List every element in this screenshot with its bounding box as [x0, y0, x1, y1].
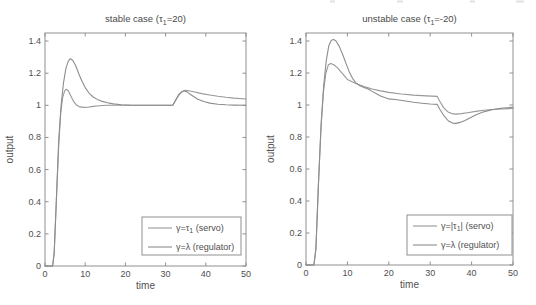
y-tick-label: 0.4 [289, 196, 302, 206]
y-tick-label: 1 [297, 100, 302, 110]
legend-label: γ=λ (regulator) [441, 240, 499, 250]
x-tick-label: 10 [342, 268, 352, 278]
y-tick-label: 0.4 [28, 197, 41, 207]
chart-title: unstable case (τ1=-20) [362, 13, 457, 26]
y-tick-label: 0.2 [28, 229, 41, 239]
x-tick-label: 40 [201, 269, 211, 279]
y-tick-label: 0 [36, 261, 41, 271]
y-tick-label: 1 [36, 100, 41, 110]
chart-title: stable case (τ1=20) [105, 13, 186, 26]
x-tick-label: 0 [42, 269, 47, 279]
y-tick-label: 1.2 [289, 68, 302, 78]
y-tick-label: 0.6 [28, 165, 41, 175]
y-axis-label: output [4, 135, 15, 163]
cropped-text-artifact [330, 1, 335, 3]
x-axis-label: time [400, 279, 419, 290]
y-tick-label: 1.2 [28, 68, 41, 78]
x-tick-label: 50 [241, 269, 251, 279]
y-tick-label: 0.8 [289, 132, 302, 142]
cropped-text-artifact [397, 1, 403, 3]
y-axis-label: output [265, 135, 276, 163]
y-tick-label: 1.4 [289, 36, 302, 46]
x-tick-label: 0 [303, 268, 308, 278]
cropped-text-artifact [516, 1, 524, 3]
legend-label: γ=|τ1| (servo) [441, 221, 493, 232]
x-tick-label: 40 [467, 268, 477, 278]
x-tick-label: 20 [120, 269, 130, 279]
y-tick-label: 0 [297, 260, 302, 270]
x-tick-label: 20 [384, 268, 394, 278]
cropped-text-artifact [470, 1, 475, 3]
x-tick-label: 50 [508, 268, 518, 278]
x-tick-label: 10 [80, 269, 90, 279]
y-tick-label: 1.4 [28, 36, 41, 46]
y-tick-label: 0.8 [28, 132, 41, 142]
y-tick-label: 0.2 [289, 228, 302, 238]
x-axis-label: time [136, 280, 155, 291]
x-tick-label: 30 [161, 269, 171, 279]
legend-label: γ=τ1 (servo) [176, 223, 224, 234]
x-tick-label: 30 [425, 268, 435, 278]
dual-plot-figure: 0102030405000.20.40.60.811.21.4stable ca… [0, 0, 536, 305]
legend-label: γ=λ (regulator) [176, 242, 234, 252]
figure-canvas: 0102030405000.20.40.60.811.21.4stable ca… [0, 0, 536, 305]
y-tick-label: 0.6 [289, 164, 302, 174]
